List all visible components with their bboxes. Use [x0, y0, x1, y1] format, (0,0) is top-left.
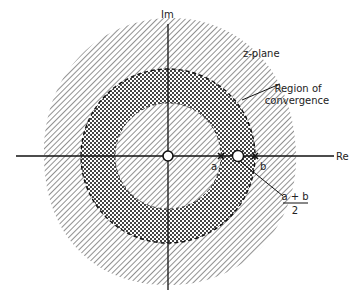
region-label-line2: convergence: [265, 95, 329, 106]
region-label-line1: Region of: [274, 83, 322, 94]
point-a-label: a: [211, 161, 217, 172]
midpoint-numerator: a + b: [281, 191, 308, 202]
imag-axis-label: Im: [161, 9, 174, 20]
point-b-label: b: [260, 161, 266, 172]
midpoint-denominator: 2: [292, 205, 298, 216]
origin-zero-marker: [163, 151, 173, 161]
real-axis-label: Re: [336, 151, 349, 162]
z-plane-diagram: Im Re z-plane Region of convergence a b …: [0, 0, 360, 303]
plane-label: z-plane: [243, 48, 280, 59]
midpoint-zero-marker: [233, 151, 244, 162]
